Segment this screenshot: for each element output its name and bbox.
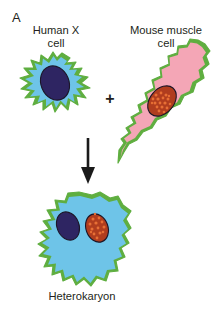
plus-operator: + — [100, 90, 120, 109]
mouse-muscle-cell-group — [118, 39, 210, 163]
mouse-cell-label: Mouse muscle cell — [112, 24, 220, 50]
figure-panel: A Human X cell Mouse muscle cell + Heter… — [0, 0, 224, 313]
arrow-head — [81, 167, 95, 184]
heterokaryon-label: Heterokaryon — [20, 290, 144, 303]
human-x-cell-group — [20, 52, 90, 112]
fusion-arrow — [81, 138, 95, 184]
heterokaryon-cell-group — [38, 192, 131, 286]
human-cell-label: Human X cell — [8, 24, 104, 50]
